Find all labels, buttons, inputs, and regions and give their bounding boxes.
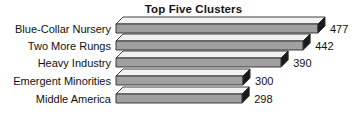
- bar-2: [116, 34, 310, 50]
- value-label: 298: [254, 93, 272, 105]
- bar-4: [116, 69, 250, 85]
- bar-5: [116, 87, 249, 103]
- category-label: Emergent Minorities: [13, 75, 111, 87]
- bar-1: [116, 17, 325, 33]
- category-labels-group: Blue-Collar NurseryTwo More RungsHeavy I…: [13, 23, 112, 105]
- category-label: Two More Rungs: [28, 40, 112, 52]
- category-label: Middle America: [36, 93, 112, 105]
- value-label: 390: [293, 57, 311, 69]
- chart-container: Top Five Clusters Blue-Collar NurseryTwo…: [0, 0, 359, 129]
- value-label: 442: [315, 40, 333, 52]
- category-label: Blue-Collar Nursery: [15, 23, 111, 35]
- bar-chart-plot: Blue-Collar NurseryTwo More RungsHeavy I…: [0, 0, 359, 129]
- value-label: 300: [255, 75, 273, 87]
- category-label: Heavy Industry: [38, 57, 112, 69]
- bar-3: [116, 51, 288, 67]
- value-label: 477: [330, 23, 348, 35]
